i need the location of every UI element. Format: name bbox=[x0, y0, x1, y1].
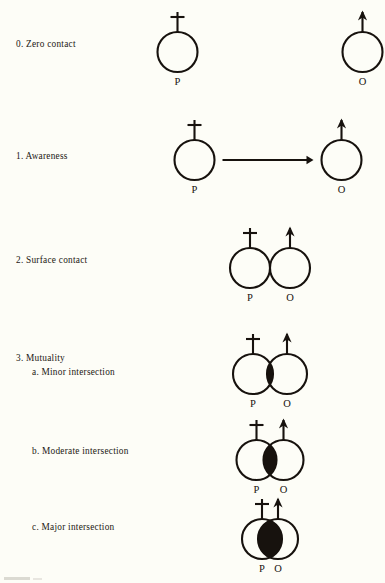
svg-text:O: O bbox=[286, 292, 294, 303]
contact-figure: PO bbox=[0, 8, 385, 113]
scan-artifact-mark bbox=[4, 577, 30, 580]
diagram-page: 0. Zero contact PO 1. Awareness PO 2. Su… bbox=[0, 0, 385, 583]
svg-text:P: P bbox=[247, 292, 253, 303]
svg-text:O: O bbox=[338, 184, 346, 195]
svg-text:O: O bbox=[280, 484, 288, 495]
svg-text:P: P bbox=[192, 184, 198, 195]
svg-text:O: O bbox=[274, 563, 282, 574]
svg-text:O: O bbox=[283, 398, 291, 409]
contact-figure: PO bbox=[0, 118, 385, 223]
contact-figure: PO bbox=[0, 222, 385, 327]
svg-text:P: P bbox=[259, 563, 265, 574]
svg-text:P: P bbox=[250, 398, 256, 409]
svg-text:P: P bbox=[254, 484, 260, 495]
svg-text:P: P bbox=[175, 76, 181, 87]
scan-artifact-mark-secondary bbox=[33, 578, 42, 580]
svg-text:O: O bbox=[359, 76, 367, 87]
contact-figure: PO bbox=[0, 495, 385, 583]
